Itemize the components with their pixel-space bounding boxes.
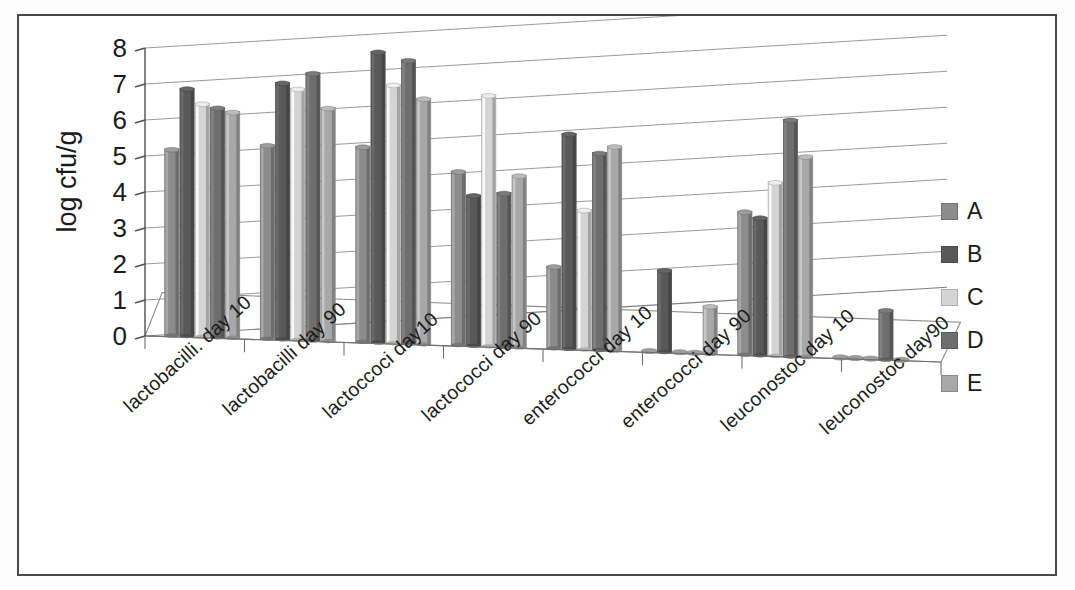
legend-label: B — [967, 243, 982, 266]
legend-swatch-icon — [941, 332, 958, 349]
legend-label: D — [967, 329, 984, 352]
y-axis-tick-label: 8 — [93, 35, 127, 61]
legend-item-a[interactable]: A — [941, 190, 1021, 233]
legend-item-b[interactable]: B — [941, 233, 1021, 276]
y-axis-tick-label: 6 — [93, 107, 127, 133]
chart-legend: ABCDE — [941, 190, 1021, 405]
legend-label: E — [967, 372, 982, 395]
legend-item-d[interactable]: D — [941, 319, 1021, 362]
plot-area: log cfu/g 012345678 lactobacilli. day 10… — [19, 16, 1059, 578]
y-axis-tick-label: 4 — [93, 179, 127, 205]
legend-swatch-icon — [941, 203, 958, 220]
y-axis-tick-label: 5 — [93, 143, 127, 169]
chart-frame: log cfu/g 012345678 lactobacilli. day 10… — [17, 14, 1057, 576]
legend-label: C — [967, 286, 984, 309]
legend-swatch-icon — [941, 289, 958, 306]
legend-swatch-icon — [941, 246, 958, 263]
y-axis-tick-label: 7 — [93, 71, 127, 97]
y-axis-tick-label: 0 — [93, 323, 127, 349]
bar-chart-svg — [19, 16, 1059, 578]
y-axis-tick-label: 3 — [93, 215, 127, 241]
legend-item-c[interactable]: C — [941, 276, 1021, 319]
legend-item-e[interactable]: E — [941, 362, 1021, 405]
y-axis-tick-label: 1 — [93, 287, 127, 313]
chart-page: log cfu/g 012345678 lactobacilli. day 10… — [0, 0, 1075, 590]
legend-label: A — [967, 200, 982, 223]
legend-swatch-icon — [941, 375, 958, 392]
y-axis-tick-label: 2 — [93, 251, 127, 277]
y-axis-title: log cfu/g — [52, 82, 83, 282]
